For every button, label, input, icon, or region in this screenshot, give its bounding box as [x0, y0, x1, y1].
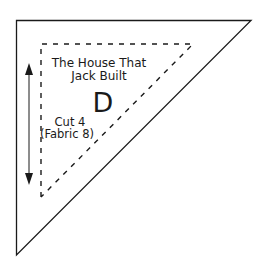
- pattern-name-line1: The House That: [51, 56, 147, 70]
- fabric-label: (Fabric 8): [40, 127, 94, 141]
- piece-letter: D: [93, 87, 114, 118]
- pattern-piece-diagram: The House That Jack Built D Cut 4 (Fabri…: [0, 0, 265, 277]
- pattern-name-line2: Jack Built: [70, 69, 127, 83]
